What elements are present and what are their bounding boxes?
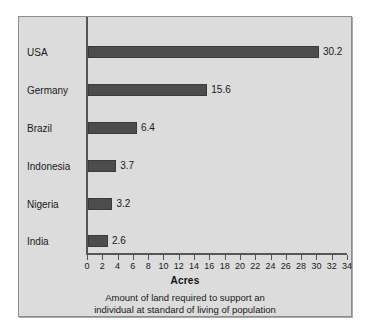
x-tick-mark-28 xyxy=(301,255,302,260)
x-tick-mark-4 xyxy=(118,255,119,260)
bar-value-usa: 30.2 xyxy=(323,46,342,58)
x-tick-mark-10 xyxy=(163,255,164,260)
bar-value-nigeria: 3.2 xyxy=(116,198,130,210)
x-tick-mark-8 xyxy=(148,255,149,260)
bar-value-india: 2.6 xyxy=(112,235,126,247)
category-label-usa: USA xyxy=(27,47,83,59)
x-tick-mark-6 xyxy=(133,255,134,260)
x-tick-mark-24 xyxy=(271,255,272,260)
x-tick-mark-20 xyxy=(240,255,241,260)
x-tick-label-30: 30 xyxy=(311,261,321,272)
category-label-brazil: Brazil xyxy=(27,123,83,135)
bar-indonesia[interactable] xyxy=(88,160,116,172)
bar-value-indonesia: 3.7 xyxy=(120,160,134,172)
x-tick-mark-30 xyxy=(316,255,317,260)
value-axis-line xyxy=(86,253,347,255)
x-tick-label-28: 28 xyxy=(296,261,306,272)
x-tick-label-4: 4 xyxy=(115,261,120,272)
x-tick-mark-16 xyxy=(209,255,210,260)
bar-value-brazil: 6.4 xyxy=(141,122,155,134)
x-tick-label-0: 0 xyxy=(84,261,89,272)
plot-area: USA Germany Brazil Indonesia Nigeria Ind… xyxy=(19,17,351,316)
x-tick-label-6: 6 xyxy=(130,261,135,272)
x-tick-mark-32 xyxy=(332,255,333,260)
x-axis-title: Acres xyxy=(19,275,351,286)
x-tick-mark-14 xyxy=(194,255,195,260)
x-tick-mark-0 xyxy=(87,255,88,260)
x-tick-label-18: 18 xyxy=(220,261,230,272)
bar-usa[interactable] xyxy=(88,46,319,58)
x-tick-mark-18 xyxy=(225,255,226,260)
bar-value-germany: 15.6 xyxy=(211,84,230,96)
x-tick-label-24: 24 xyxy=(266,261,276,272)
category-label-india: India xyxy=(27,236,83,248)
x-tick-mark-22 xyxy=(255,255,256,260)
x-tick-label-2: 2 xyxy=(100,261,105,272)
x-tick-label-14: 14 xyxy=(189,261,199,272)
category-label-germany: Germany xyxy=(27,85,83,97)
bar-nigeria[interactable] xyxy=(88,198,112,210)
x-tick-mark-2 xyxy=(102,255,103,260)
x-tick-label-34: 34 xyxy=(342,261,352,272)
bar-germany[interactable] xyxy=(88,84,207,96)
chart-caption: Amount of land required to support an in… xyxy=(19,292,351,316)
x-tick-mark-12 xyxy=(179,255,180,260)
x-tick-label-12: 12 xyxy=(174,261,184,272)
bar-india[interactable] xyxy=(88,235,108,247)
bar-brazil[interactable] xyxy=(88,122,137,134)
x-tick-label-10: 10 xyxy=(158,261,168,272)
caption-line-1: Amount of land required to support an xyxy=(19,292,351,304)
chart-frame: USA Germany Brazil Indonesia Nigeria Ind… xyxy=(18,16,352,317)
x-tick-mark-26 xyxy=(286,255,287,260)
x-tick-label-26: 26 xyxy=(281,261,291,272)
x-tick-label-32: 32 xyxy=(327,261,337,272)
category-label-indonesia: Indonesia xyxy=(27,161,83,173)
category-label-nigeria: Nigeria xyxy=(27,199,83,211)
x-tick-label-16: 16 xyxy=(204,261,214,272)
caption-line-2: individual at standard of living of popu… xyxy=(19,304,351,316)
x-tick-label-20: 20 xyxy=(235,261,245,272)
x-tick-label-8: 8 xyxy=(146,261,151,272)
x-tick-label-22: 22 xyxy=(250,261,260,272)
x-tick-mark-34 xyxy=(347,255,348,260)
